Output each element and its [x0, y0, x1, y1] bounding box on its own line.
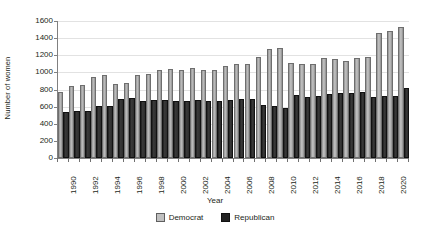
x-axis-tick-label: 2002: [202, 162, 210, 194]
bar-group: [343, 21, 354, 158]
legend-swatch-democrat-icon: [156, 213, 165, 222]
legend-label-republican: Republican: [234, 213, 274, 222]
bar-group: [69, 21, 80, 158]
bar-group: [332, 21, 343, 158]
x-axis-tick-label: 2016: [356, 162, 364, 194]
y-axis-tick-label: 600: [17, 103, 53, 111]
y-axis-tick-label: 800: [17, 86, 53, 94]
x-axis-tick-label: 2012: [312, 162, 320, 194]
bar-group: [146, 21, 157, 158]
y-axis-tick-label: 200: [17, 137, 53, 145]
bar-group: [244, 21, 255, 158]
bar-group: [212, 21, 223, 158]
bar-group: [58, 21, 69, 158]
bar-group: [288, 21, 299, 158]
x-axis-title: Year: [0, 196, 430, 205]
bar-group: [124, 21, 135, 158]
x-axis-tick-label: 2014: [334, 162, 342, 194]
x-axis-tick-label: 1992: [92, 162, 100, 194]
x-axis-tick-labels: 1990199219941996199820002002200420062008…: [57, 162, 408, 198]
bar-group: [310, 21, 321, 158]
y-axis-tick-label: 1400: [17, 34, 53, 42]
legend-swatch-republican-icon: [221, 213, 230, 222]
bar-group: [266, 21, 277, 158]
bar-group: [201, 21, 212, 158]
x-axis-tick-label: 2018: [378, 162, 386, 194]
x-axis-tick-label: 2008: [268, 162, 276, 194]
x-axis-tick-label: 2004: [224, 162, 232, 194]
x-axis-tick-label: 2020: [400, 162, 408, 194]
bar-group: [354, 21, 365, 158]
x-axis-tick-label: 2006: [246, 162, 254, 194]
legend-item-democrat: Democrat: [156, 213, 204, 222]
legend-label-democrat: Democrat: [169, 213, 204, 222]
bar-republican: [404, 88, 409, 158]
plot-area: [57, 21, 409, 159]
bar-group: [190, 21, 201, 158]
bar-group: [135, 21, 146, 158]
bar-group: [321, 21, 332, 158]
x-axis-tick-label: 1996: [136, 162, 144, 194]
bar-group: [102, 21, 113, 158]
bar-group: [91, 21, 102, 158]
y-axis-tick-label: 0: [17, 154, 53, 162]
y-axis-tick-label: 400: [17, 120, 53, 128]
x-axis-tick-label: 1994: [114, 162, 122, 194]
x-axis-tick-label: 2010: [290, 162, 298, 194]
bar-group: [179, 21, 190, 158]
chart-legend: Democrat Republican: [0, 213, 430, 222]
y-axis-tick-label: 1600: [17, 17, 53, 25]
x-axis-tick-mark: [408, 158, 409, 162]
bar-group: [113, 21, 124, 158]
bar-group: [255, 21, 266, 158]
bar-group: [157, 21, 168, 158]
x-axis-tick-label: 1990: [70, 162, 78, 194]
bar-group: [277, 21, 288, 158]
bar-group: [365, 21, 376, 158]
bar-group: [299, 21, 310, 158]
legend-item-republican: Republican: [221, 213, 274, 222]
bar-group: [234, 21, 245, 158]
bar-groups: [58, 21, 409, 158]
bar-group: [376, 21, 387, 158]
bar-group: [80, 21, 91, 158]
y-axis-tick-label: 1200: [17, 51, 53, 59]
y-axis-tick-label: 1000: [17, 68, 53, 76]
bar-group: [387, 21, 398, 158]
x-axis-tick-label: 2000: [180, 162, 188, 194]
y-axis-title: Number of women: [3, 0, 17, 40]
bar-group: [398, 21, 409, 158]
bar-chart-figure: Number of women 020040060080010001200140…: [0, 0, 430, 237]
x-axis-tick-label: 1998: [158, 162, 166, 194]
bar-group: [223, 21, 234, 158]
bar-group: [168, 21, 179, 158]
y-axis-title-text: Number of women: [3, 40, 12, 136]
